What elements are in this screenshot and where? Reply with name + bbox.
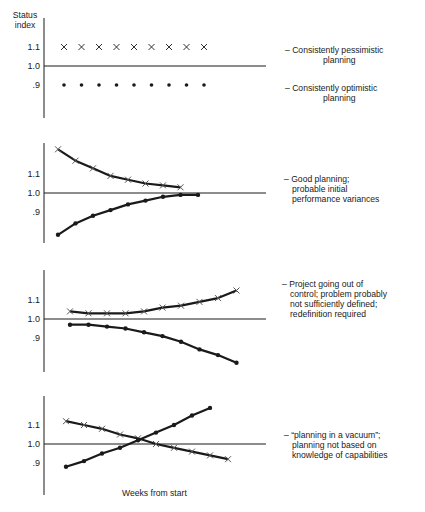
x-axis-label: Weeks from start bbox=[122, 488, 187, 498]
p2-tick-1.1: 1.1 bbox=[14, 169, 40, 179]
p1-annotation-pessimistic: – Consistently pessimistic planning bbox=[285, 45, 383, 65]
x-marker-icon bbox=[166, 44, 172, 50]
dot-marker-icon bbox=[197, 347, 201, 351]
x-marker-icon bbox=[184, 44, 190, 50]
dot-marker-icon bbox=[115, 83, 119, 87]
dot-marker-icon bbox=[185, 83, 189, 87]
y-label-line2: index bbox=[8, 20, 42, 30]
dot-marker-icon bbox=[126, 202, 130, 206]
series-line bbox=[58, 149, 181, 187]
dot-marker-icon bbox=[132, 83, 136, 87]
x-marker-icon bbox=[114, 44, 120, 50]
p2-annotation: – Good planning; probable initial perfor… bbox=[284, 174, 379, 204]
p3-tick-1.0: 1.0 bbox=[14, 314, 40, 324]
p2-line3: performance variances bbox=[284, 194, 379, 204]
p3-line4: redefinition required bbox=[282, 309, 387, 319]
dot-marker-icon bbox=[196, 193, 200, 197]
dot-marker-icon bbox=[86, 323, 90, 327]
p1-b-line2: planning bbox=[285, 93, 377, 103]
series-line bbox=[70, 325, 237, 363]
p3-line1: – Project going out of bbox=[282, 279, 387, 289]
dot-marker-icon bbox=[142, 330, 146, 334]
dot-marker-icon bbox=[118, 446, 122, 450]
dot-marker-icon bbox=[172, 423, 176, 427]
p3-tick-0.9: .9 bbox=[14, 333, 40, 343]
p2-line2: probable initial bbox=[284, 184, 379, 194]
p4-tick-1.1: 1.1 bbox=[14, 420, 40, 430]
dot-marker-icon bbox=[178, 193, 182, 197]
p1-b-line1: – Consistently optimistic bbox=[285, 83, 377, 93]
p1-a-line2: planning bbox=[285, 55, 383, 65]
dot-marker-icon bbox=[160, 334, 164, 338]
p1-tick-1.0: 1.0 bbox=[14, 61, 40, 71]
dot-marker-icon bbox=[105, 324, 109, 328]
dot-marker-icon bbox=[167, 83, 171, 87]
dot-marker-icon bbox=[73, 221, 77, 225]
dot-marker-icon bbox=[150, 83, 154, 87]
x-marker-icon bbox=[131, 44, 137, 50]
series-line bbox=[70, 291, 237, 314]
x-marker-icon bbox=[79, 44, 85, 50]
dot-marker-icon bbox=[68, 323, 72, 327]
dot-marker-icon bbox=[136, 438, 140, 442]
p3-annotation: – Project going out of control; problem … bbox=[282, 279, 387, 319]
dot-marker-icon bbox=[234, 361, 238, 365]
p1-tick-0.9: .9 bbox=[14, 80, 40, 90]
dot-marker-icon bbox=[216, 353, 220, 357]
y-axis-label: Status index bbox=[8, 10, 42, 30]
series-line bbox=[58, 195, 198, 235]
p4-line3: knowledge of capabilities bbox=[284, 450, 388, 460]
series-line bbox=[66, 421, 228, 459]
p3-line3: not sufficiently defined; bbox=[282, 299, 387, 309]
dot-marker-icon bbox=[91, 214, 95, 218]
dot-marker-icon bbox=[161, 195, 165, 199]
p4-tick-0.9: .9 bbox=[14, 458, 40, 468]
p2-line1: – Good planning; bbox=[284, 174, 379, 184]
dot-marker-icon bbox=[56, 233, 60, 237]
p2-tick-1.0: 1.0 bbox=[14, 188, 40, 198]
x-marker-icon bbox=[55, 146, 61, 152]
dot-marker-icon bbox=[100, 451, 104, 455]
dot-marker-icon bbox=[202, 83, 206, 87]
dot-marker-icon bbox=[190, 413, 194, 417]
x-marker-icon bbox=[61, 44, 67, 50]
dot-marker-icon bbox=[108, 208, 112, 212]
dot-marker-icon bbox=[154, 430, 158, 434]
p2-tick-0.9: .9 bbox=[14, 207, 40, 217]
dot-marker-icon bbox=[97, 83, 101, 87]
p4-tick-1.0: 1.0 bbox=[14, 439, 40, 449]
dot-marker-icon bbox=[64, 465, 68, 469]
p1-a-line1: – Consistently pessimistic bbox=[285, 45, 383, 55]
y-label-line1: Status bbox=[8, 10, 42, 20]
p1-annotation-optimistic: – Consistently optimistic planning bbox=[285, 83, 377, 103]
p3-tick-1.1: 1.1 bbox=[14, 295, 40, 305]
dot-marker-icon bbox=[179, 340, 183, 344]
p4-annotation: – “planning in a vacuum”; planning not b… bbox=[284, 430, 388, 460]
dot-marker-icon bbox=[208, 406, 212, 410]
x-marker-icon bbox=[201, 44, 207, 50]
dot-marker-icon bbox=[143, 198, 147, 202]
dot-marker-icon bbox=[62, 83, 66, 87]
x-marker-icon bbox=[149, 44, 155, 50]
dot-marker-icon bbox=[80, 83, 84, 87]
p1-tick-1.1: 1.1 bbox=[14, 42, 40, 52]
p4-line1: – “planning in a vacuum”; bbox=[284, 430, 388, 440]
p4-line2: planning not based on bbox=[284, 440, 388, 450]
dot-marker-icon bbox=[123, 326, 127, 330]
x-marker-icon bbox=[96, 44, 102, 50]
dot-marker-icon bbox=[82, 459, 86, 463]
p3-line2: control; problem probably bbox=[282, 289, 387, 299]
